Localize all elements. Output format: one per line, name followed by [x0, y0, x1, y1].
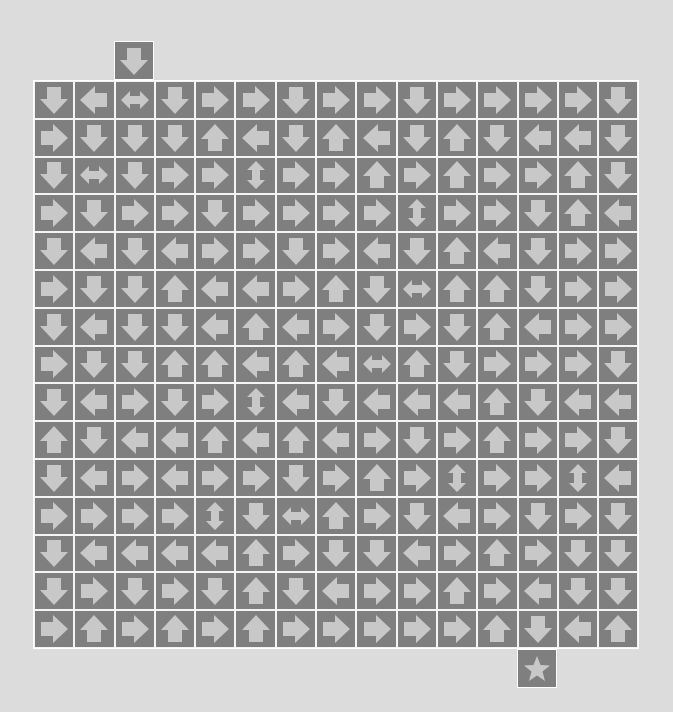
grid-cell[interactable] [437, 421, 477, 459]
grid-cell[interactable] [115, 572, 155, 610]
grid-cell[interactable] [155, 346, 195, 384]
grid-cell[interactable] [356, 572, 396, 610]
grid-cell[interactable] [115, 346, 155, 384]
grid-cell[interactable] [276, 232, 316, 270]
grid-cell[interactable] [115, 232, 155, 270]
grid-cell[interactable] [437, 346, 477, 384]
grid-cell[interactable] [195, 497, 235, 535]
grid-cell[interactable] [155, 81, 195, 119]
grid-cell[interactable] [74, 610, 114, 648]
grid-cell[interactable] [477, 497, 517, 535]
grid-cell[interactable] [235, 459, 275, 497]
grid-cell[interactable] [34, 232, 74, 270]
grid-cell[interactable] [195, 421, 235, 459]
grid-cell[interactable] [356, 383, 396, 421]
grid-cell[interactable] [356, 497, 396, 535]
grid-cell[interactable] [276, 308, 316, 346]
grid-cell[interactable] [437, 81, 477, 119]
grid-cell[interactable] [518, 232, 558, 270]
grid-cell[interactable] [316, 572, 356, 610]
grid-cell[interactable] [115, 421, 155, 459]
grid-cell[interactable] [477, 421, 517, 459]
grid-cell[interactable] [437, 572, 477, 610]
grid-cell[interactable] [155, 194, 195, 232]
grid-cell[interactable] [356, 610, 396, 648]
grid-cell[interactable] [356, 535, 396, 573]
grid-cell[interactable] [235, 421, 275, 459]
start-cell[interactable] [114, 41, 154, 80]
grid-cell[interactable] [558, 81, 598, 119]
grid-cell[interactable] [397, 383, 437, 421]
grid-cell[interactable] [155, 572, 195, 610]
grid-cell[interactable] [558, 535, 598, 573]
grid-cell[interactable] [74, 346, 114, 384]
grid-cell[interactable] [276, 157, 316, 195]
grid-cell[interactable] [235, 81, 275, 119]
grid-cell[interactable] [477, 572, 517, 610]
grid-cell[interactable] [155, 308, 195, 346]
grid-cell[interactable] [195, 232, 235, 270]
grid-cell[interactable] [397, 346, 437, 384]
grid-cell[interactable] [195, 383, 235, 421]
grid-cell[interactable] [356, 232, 396, 270]
grid-cell[interactable] [477, 270, 517, 308]
grid-cell[interactable] [195, 535, 235, 573]
grid-cell[interactable] [437, 194, 477, 232]
grid-cell[interactable] [316, 346, 356, 384]
grid-cell[interactable] [74, 459, 114, 497]
grid-cell[interactable] [558, 421, 598, 459]
grid-cell[interactable] [74, 308, 114, 346]
goal-cell[interactable] [517, 649, 557, 688]
grid-cell[interactable] [155, 610, 195, 648]
grid-cell[interactable] [397, 308, 437, 346]
grid-cell[interactable] [195, 346, 235, 384]
grid-cell[interactable] [477, 119, 517, 157]
grid-cell[interactable] [74, 81, 114, 119]
grid-cell[interactable] [397, 119, 437, 157]
grid-cell[interactable] [598, 421, 638, 459]
grid-cell[interactable] [598, 383, 638, 421]
grid-cell[interactable] [34, 383, 74, 421]
grid-cell[interactable] [437, 119, 477, 157]
grid-cell[interactable] [437, 459, 477, 497]
grid-cell[interactable] [437, 270, 477, 308]
grid-cell[interactable] [316, 308, 356, 346]
grid-cell[interactable] [276, 194, 316, 232]
grid-cell[interactable] [558, 270, 598, 308]
grid-cell[interactable] [74, 157, 114, 195]
grid-cell[interactable] [598, 572, 638, 610]
grid-cell[interactable] [316, 535, 356, 573]
grid-cell[interactable] [235, 194, 275, 232]
grid-cell[interactable] [397, 497, 437, 535]
grid-cell[interactable] [437, 497, 477, 535]
grid-cell[interactable] [316, 421, 356, 459]
grid-cell[interactable] [598, 119, 638, 157]
grid-cell[interactable] [316, 157, 356, 195]
grid-cell[interactable] [155, 535, 195, 573]
grid-cell[interactable] [195, 194, 235, 232]
grid-cell[interactable] [276, 572, 316, 610]
grid-cell[interactable] [276, 81, 316, 119]
grid-cell[interactable] [235, 232, 275, 270]
grid-cell[interactable] [518, 383, 558, 421]
grid-cell[interactable] [518, 610, 558, 648]
grid-cell[interactable] [115, 610, 155, 648]
grid-cell[interactable] [558, 308, 598, 346]
grid-cell[interactable] [598, 232, 638, 270]
grid-cell[interactable] [276, 535, 316, 573]
grid-cell[interactable] [115, 497, 155, 535]
grid-cell[interactable] [235, 535, 275, 573]
grid-cell[interactable] [276, 421, 316, 459]
grid-cell[interactable] [74, 421, 114, 459]
grid-cell[interactable] [316, 232, 356, 270]
grid-cell[interactable] [598, 610, 638, 648]
grid-cell[interactable] [598, 157, 638, 195]
grid-cell[interactable] [518, 572, 558, 610]
grid-cell[interactable] [235, 383, 275, 421]
grid-cell[interactable] [397, 194, 437, 232]
grid-cell[interactable] [34, 421, 74, 459]
grid-cell[interactable] [437, 232, 477, 270]
grid-cell[interactable] [235, 346, 275, 384]
grid-cell[interactable] [598, 270, 638, 308]
grid-cell[interactable] [437, 308, 477, 346]
